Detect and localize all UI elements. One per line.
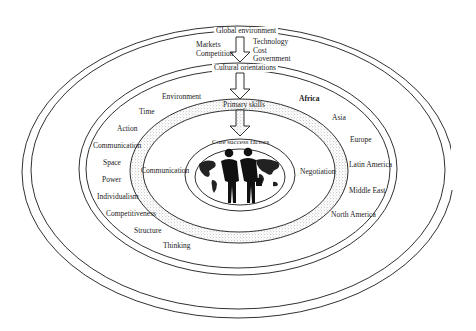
region-middle-east: Middle East bbox=[349, 187, 385, 195]
region-north-america: North America bbox=[331, 211, 376, 219]
cultural-item-time: Time bbox=[139, 108, 155, 116]
cultural-item-structure: Structure bbox=[134, 227, 162, 235]
world-map-icon bbox=[199, 159, 279, 193]
primary-skill-communication: Communication bbox=[141, 167, 189, 175]
factor-technology: Technology bbox=[253, 38, 288, 46]
cultural-orientations-title: Cultural orientations bbox=[212, 64, 278, 72]
arrow-primary-to-core bbox=[230, 110, 250, 136]
core-success-outer-ring bbox=[185, 139, 295, 211]
region-asia: Asia bbox=[332, 114, 346, 122]
concentric-ellipses bbox=[0, 0, 476, 331]
cultural-item-competitiveness: Competitiveness bbox=[106, 210, 156, 218]
cultural-item-space: Space bbox=[103, 159, 121, 167]
cultural-item-environment: Environment bbox=[162, 93, 201, 101]
business-people-icon bbox=[221, 148, 262, 203]
region-europe: Europe bbox=[350, 136, 372, 144]
region-latin-america: Latin America bbox=[349, 161, 392, 169]
primary-skill-negotiation: Negotiation bbox=[300, 168, 335, 176]
factor-markets: Markets bbox=[196, 41, 221, 49]
cultural-item-action: Action bbox=[117, 125, 137, 133]
region-africa: Africa bbox=[299, 95, 319, 103]
factor-government: Government bbox=[253, 55, 291, 63]
cultural-competency-diagram: Global environment Markets Competition T… bbox=[0, 0, 476, 331]
factor-competition: Competition bbox=[196, 50, 234, 58]
core-success-inner-ring bbox=[195, 149, 285, 205]
primary-skills-title: Primary skills bbox=[221, 101, 267, 109]
core-success-factors-title: Core success factors bbox=[212, 139, 269, 146]
cultural-item-communication: Communication bbox=[93, 142, 141, 150]
cultural-item-individualism: Individualism bbox=[97, 193, 139, 201]
cultural-item-thinking: Thinking bbox=[163, 242, 191, 250]
cultural-item-power: Power bbox=[102, 176, 121, 184]
arrow-cultural-to-primary bbox=[230, 73, 250, 99]
global-environment-title: Global environment bbox=[214, 27, 278, 35]
